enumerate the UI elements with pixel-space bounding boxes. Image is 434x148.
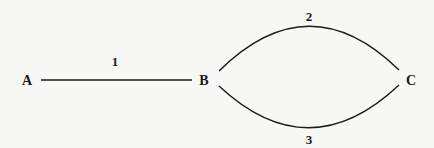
edge-2-label: 2	[306, 9, 313, 24]
edge-2-arc	[219, 26, 399, 71]
node-a-label: A	[22, 73, 33, 88]
edge-1-label: 1	[112, 54, 119, 69]
edge-3-label: 3	[306, 132, 313, 147]
node-c-label: C	[406, 73, 416, 88]
edge-3-arc	[219, 85, 399, 128]
node-b-label: B	[199, 73, 208, 88]
diagram-svg: 1 2 3 A B C	[0, 0, 434, 148]
graph-diagram: 1 2 3 A B C	[0, 0, 434, 148]
